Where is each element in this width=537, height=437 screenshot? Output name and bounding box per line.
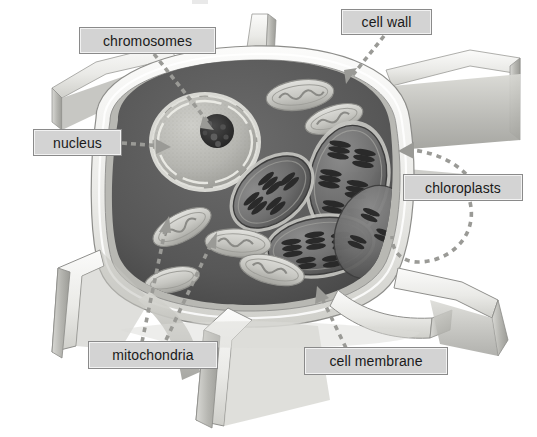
label-chloroplasts-text: chloroplasts: [421, 181, 505, 195]
label-chloroplasts[interactable]: chloroplasts: [403, 174, 523, 201]
label-cell-membrane[interactable]: cell membrane: [304, 347, 448, 375]
label-mitochondria[interactable]: mitochondria: [88, 341, 218, 369]
plant-cell-diagram: chromosomes cell wall nucleus chloroplas…: [0, 0, 537, 437]
label-chromosomes[interactable]: chromosomes: [79, 27, 216, 54]
label-mitochondria-text: mitochondria: [108, 348, 197, 362]
label-cell-wall-text: cell wall: [358, 15, 416, 29]
scan-artifact: [192, 0, 208, 4]
cell-illustration: [0, 0, 537, 437]
label-nucleus-text: nucleus: [49, 136, 106, 150]
label-nucleus[interactable]: nucleus: [33, 129, 122, 156]
label-cell-wall[interactable]: cell wall: [341, 9, 432, 35]
label-chromosomes-text: chromosomes: [99, 34, 196, 48]
label-cell-membrane-text: cell membrane: [325, 354, 426, 368]
